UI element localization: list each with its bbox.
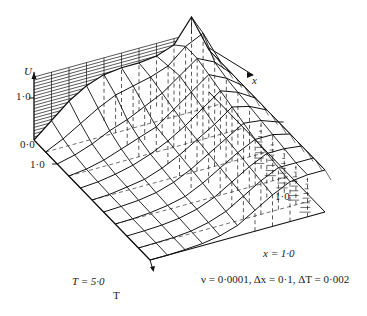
back-wall-hatch-line [34, 84, 89, 99]
right-wall-hatch-line [325, 170, 331, 180]
t-axis-arrow-icon [150, 266, 155, 272]
u-tick-label-0: 0·0 [20, 138, 35, 150]
u-tick-label-1: 1·0 [16, 90, 31, 102]
back-wall-hatch-line [34, 37, 179, 77]
parameter-annotation: ν = 0·0001, Δx = 0·1, ΔT = 0·002 [201, 273, 349, 285]
u-axis-arrow-icon [32, 72, 37, 79]
back-wall-hatch-line [34, 71, 113, 93]
profile-line-x-1 [52, 121, 168, 256]
t-axis-label: T [113, 289, 120, 301]
profile-line-t-4 [80, 91, 255, 188]
u-axis-label: U [24, 65, 33, 77]
back-wall-hatch-line [34, 50, 165, 86]
x-axis-label: x [251, 74, 257, 86]
surface-plot: U 1·0 0·0 1·0 x T = 5·0 T x = 1·0 1·0 ν … [0, 0, 367, 316]
left-base-edge [34, 140, 150, 260]
t-end-label: T = 5·0 [72, 275, 105, 287]
t-tick-label-1: 1·0 [30, 158, 45, 170]
x-axis-line [209, 48, 253, 75]
back-wall-hatch-line [34, 56, 157, 90]
wireframe-grid [34, 17, 325, 260]
x-end-label: x = 1·0 [262, 247, 295, 259]
right-u-tick-label: 1·0 [275, 190, 290, 202]
